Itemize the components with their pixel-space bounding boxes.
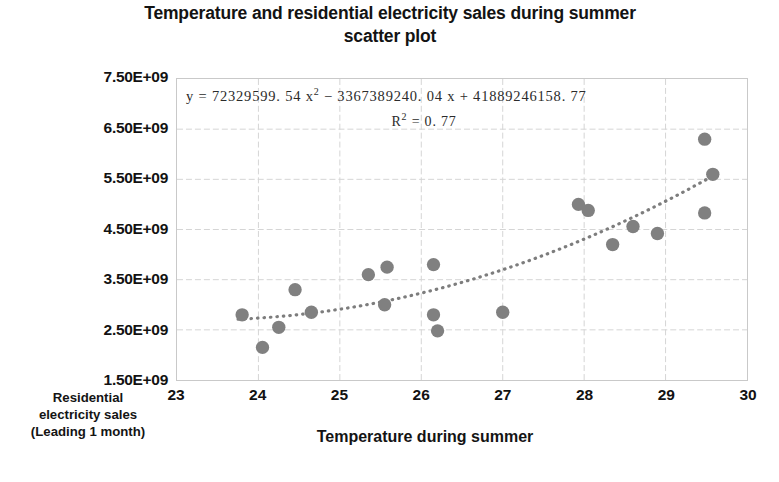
y-axis-title-line-2: electricity sales [39, 407, 137, 422]
data-point [606, 238, 619, 251]
data-point [427, 308, 440, 321]
data-point [235, 308, 248, 321]
x-axis-tick-label: 27 [473, 386, 533, 404]
chart-title: Temperature and residential electricity … [110, 2, 670, 48]
data-point [378, 298, 391, 311]
data-point [256, 341, 269, 354]
x-axis-tick-label: 24 [228, 386, 288, 404]
data-point [380, 260, 393, 273]
data-point [698, 133, 711, 146]
data-point [305, 306, 318, 319]
data-point [427, 258, 440, 271]
data-point [272, 321, 285, 334]
scatter-chart: Temperature and residential electricity … [0, 0, 779, 482]
data-point [651, 227, 664, 240]
y-axis-title-line-3: (Leading 1 month) [31, 424, 145, 439]
y-axis-tick-label: 4.50E+09 [48, 220, 168, 238]
y-axis-tick-label: 6.50E+09 [48, 119, 168, 137]
data-point [582, 204, 595, 217]
bottom-caption [30, 466, 750, 478]
y-axis-tick-label: 2.50E+09 [48, 321, 168, 339]
data-point [431, 324, 444, 337]
data-point [362, 268, 375, 281]
y-axis-tick-label: 7.50E+09 [48, 68, 168, 86]
x-axis-tick-label: 26 [391, 386, 451, 404]
plot-area [176, 78, 748, 381]
data-point [706, 168, 719, 181]
chart-title-line-2: scatter plot [344, 26, 437, 46]
data-point [288, 283, 301, 296]
y-axis-title-line-1: Residential [53, 390, 123, 405]
x-axis-tick-label: 25 [309, 386, 369, 404]
x-axis-tick-label: 30 [718, 386, 778, 404]
x-axis-tick-label: 28 [555, 386, 615, 404]
y-axis-title: Residential electricity sales (Leading 1… [8, 389, 168, 440]
chart-title-line-1: Temperature and residential electricity … [144, 3, 636, 23]
x-axis-tick-label: 29 [636, 386, 696, 404]
data-points [177, 79, 747, 380]
y-axis-tick-label: 5.50E+09 [48, 169, 168, 187]
data-point [626, 220, 639, 233]
y-axis-tick-label: 3.50E+09 [48, 270, 168, 288]
data-point [698, 206, 711, 219]
data-point [496, 306, 509, 319]
x-axis-title: Temperature during summer [230, 428, 620, 446]
